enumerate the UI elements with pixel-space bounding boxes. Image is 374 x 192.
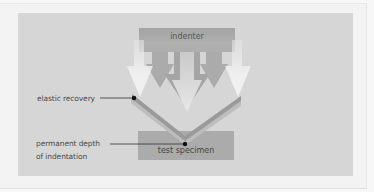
permanent-depth-label-line1: permanent depth [36, 138, 100, 149]
elastic-recovery-leader [100, 96, 136, 100]
elastic-recovery-label: elastic recovery [37, 93, 95, 104]
permanent-depth-label-line2: of indentation [36, 151, 87, 162]
indenter-label: indenter [139, 32, 235, 41]
test-specimen-label: test specimen [138, 146, 234, 155]
